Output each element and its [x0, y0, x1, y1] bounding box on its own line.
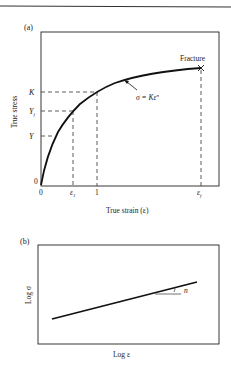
y-tick-k: K — [28, 88, 35, 97]
panel-a: (a) Fracture σ = Kεn K Yf Y 0 0 — [10, 23, 219, 215]
x-tick-zero: 0 — [39, 188, 43, 197]
x-tick-epsf-sub: f — [200, 193, 202, 198]
y-tick-y: Y — [29, 132, 35, 141]
x-axis-label-log: Log ε — [113, 350, 130, 359]
annotation-arrow-line — [127, 82, 137, 90]
equation-exponent: n — [156, 93, 159, 98]
flow-curve — [41, 68, 201, 185]
top-rule — [0, 6, 231, 7]
equation-base: σ = Kε — [136, 93, 157, 102]
y-axis-label: True stress — [10, 96, 19, 129]
fracture-label: Fracture — [180, 54, 206, 63]
curve-equation: σ = Kεn — [136, 93, 159, 102]
x-tick-one: 1 — [95, 188, 99, 197]
x-tick-eps1-sub: 1 — [73, 193, 76, 198]
slope-triangle — [155, 287, 181, 294]
y-tick-zero: 0 — [34, 177, 38, 186]
panel-b: (b) n Log ε Log σ — [20, 237, 219, 359]
guide-lines — [41, 70, 201, 186]
y-axis-label-log: Log σ — [24, 286, 33, 304]
x-tick-eps1: ε1 — [70, 188, 75, 198]
x-axis-label: True strain (ε) — [106, 206, 149, 215]
panel-b-label: (b) — [20, 237, 30, 246]
y-tick-yf: Yf — [29, 107, 35, 117]
log-log-line — [52, 282, 197, 319]
x-tick-epsf: εf — [197, 188, 202, 198]
panel-b-frame — [38, 245, 219, 344]
y-tick-yf-sub: f — [33, 112, 35, 117]
panel-a-label: (a) — [24, 23, 33, 32]
stress-strain-figure: (a) Fracture σ = Kεn K Yf Y 0 0 — [0, 0, 231, 369]
slope-label: n — [184, 286, 188, 295]
